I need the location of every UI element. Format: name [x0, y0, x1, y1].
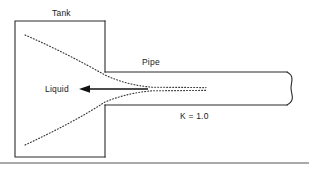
- k-coefficient-label: K = 1.0: [180, 111, 209, 121]
- liquid-label: Liquid: [45, 84, 69, 94]
- flow-direction-arrow: [79, 85, 148, 93]
- pipe-break-symbol: [287, 72, 292, 105]
- streamline-upper: [25, 35, 206, 88]
- streamline-lower: [25, 90, 206, 145]
- flow-arrow-head: [79, 85, 90, 93]
- pipe-entrance-diagram: Tank Pipe Liquid K = 1.0: [0, 0, 309, 170]
- tank-label: Tank: [52, 8, 71, 18]
- pipe-label: Pipe: [142, 57, 160, 67]
